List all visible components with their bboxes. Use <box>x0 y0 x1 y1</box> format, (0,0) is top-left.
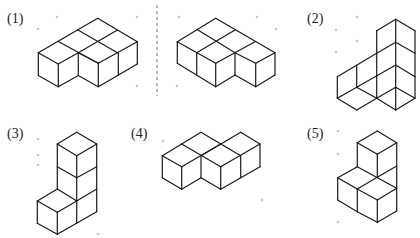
figure-label-4: (4) <box>131 127 147 141</box>
figure-4 <box>162 132 260 189</box>
figure-1-right-view <box>177 18 275 86</box>
figure-5 <box>338 131 397 222</box>
figure-label-3: (3) <box>7 127 23 141</box>
figure-1-left-view <box>38 18 137 86</box>
figures-canvas <box>0 0 420 238</box>
isometric-cube-figures: (1) (2) (3) (4) (5) <box>0 0 420 238</box>
figure-2 <box>337 19 415 110</box>
figure-label-2: (2) <box>307 12 323 26</box>
figure-label-1: (1) <box>7 12 23 26</box>
figure-3 <box>37 132 96 234</box>
figure-label-5: (5) <box>307 127 323 141</box>
